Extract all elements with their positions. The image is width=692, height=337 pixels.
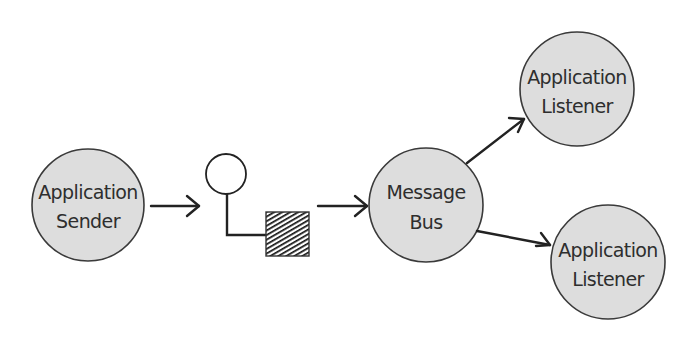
edge-sender-to-endpoint <box>151 196 199 216</box>
node-application-listener-top: Application Listener <box>520 32 634 146</box>
message-endpoint-symbol <box>206 154 309 256</box>
listener-top-circle <box>520 32 634 146</box>
listener-top-label-line2: Listener <box>541 95 613 117</box>
bus-label-line2: Bus <box>409 211 442 233</box>
endpoint-circle-icon <box>206 154 246 194</box>
edge-bus-to-listener-top <box>467 118 524 163</box>
node-message-bus: Message Bus <box>369 148 483 262</box>
listener-bottom-label-line1: Application <box>558 239 658 261</box>
diagram-canvas: Application Sender Message Bus Applicati… <box>0 0 692 337</box>
endpoint-connector-line <box>227 194 266 235</box>
listener-bottom-circle <box>551 205 665 319</box>
listener-top-label-line1: Application <box>527 66 627 88</box>
sender-circle <box>32 149 144 261</box>
node-application-sender: Application Sender <box>32 149 144 261</box>
arrow-line <box>467 119 524 163</box>
sender-label-line1: Application <box>38 181 138 203</box>
node-application-listener-bottom: Application Listener <box>551 205 665 319</box>
listener-bottom-label-line2: Listener <box>572 268 644 290</box>
bus-label-line1: Message <box>386 181 465 203</box>
edge-endpoint-to-bus <box>318 196 367 216</box>
sender-label-line2: Sender <box>56 210 121 232</box>
bus-circle <box>369 148 483 262</box>
channel-square-icon <box>266 212 309 256</box>
edge-bus-to-listener-bottom <box>477 231 550 246</box>
arrow-line <box>477 231 550 245</box>
